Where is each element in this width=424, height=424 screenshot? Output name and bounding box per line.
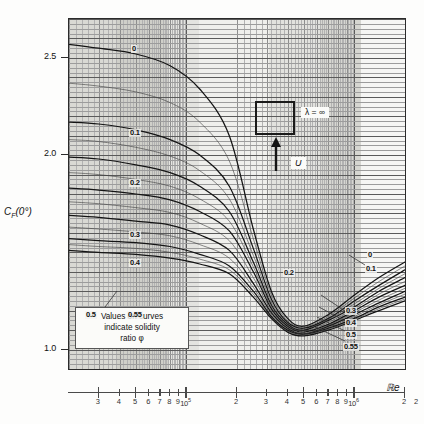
- x-axis-last-tick-label: 2: [414, 397, 418, 406]
- x-axis-tick-label: 5: [133, 397, 137, 406]
- x-axis-tick-label: 9: [176, 397, 180, 406]
- curve-label-right-0.4: 0.4: [345, 319, 357, 327]
- curve-label-right-0.1: 0.1: [365, 265, 377, 273]
- x-axis-tick: [346, 389, 347, 396]
- x-axis-tick-label: 5: [301, 397, 305, 406]
- x-axis-tick: [119, 389, 120, 396]
- curve-label-left-0.2: 0.2: [129, 179, 141, 187]
- curve-label-right-0.2: 0.2: [283, 269, 295, 277]
- x-axis-tick: [148, 389, 149, 396]
- curve-label-left-0.5: 0.5: [85, 311, 97, 319]
- x-axis-tick: [327, 389, 328, 396]
- x-axis-tick-label: 7: [325, 397, 329, 406]
- flow-arrow-icon: [269, 137, 283, 171]
- leader-line: [349, 255, 365, 265]
- velocity-annotation: U: [291, 157, 306, 169]
- lambda-annotation: λ = ∞: [301, 107, 329, 118]
- curve-intermediate: [69, 83, 405, 327]
- curve-phi-0: [69, 44, 405, 326]
- curve-label-right-0.55: 0.55: [343, 343, 359, 351]
- curve-label-left-0.55: 0.55: [127, 311, 143, 319]
- y-axis-tick-label: 2.0: [22, 148, 56, 158]
- figure-root: λ = ∞ U Values on curves indicate solidi…: [0, 0, 424, 424]
- plot-area: λ = ∞ U Values on curves indicate solidi…: [68, 18, 406, 370]
- y-axis-title-suffix: (0°): [16, 206, 32, 217]
- curve-label-left-0: 0: [131, 45, 137, 53]
- x-axis-tick-label: 8: [167, 397, 171, 406]
- curve-label-left-0.3: 0.3: [129, 231, 141, 239]
- y-axis-title: CF(0°): [4, 206, 32, 219]
- x-axis-title-text: ℝe: [386, 382, 400, 393]
- curve-label-right-0.3: 0.3: [345, 307, 357, 315]
- square-cylinder-icon: [255, 101, 295, 135]
- x-axis-tick: [169, 389, 170, 396]
- x-axis-tick: [159, 389, 160, 396]
- x-axis: 3456789105234567891062: [68, 392, 404, 393]
- x-axis-tick-label: 4: [117, 397, 121, 406]
- note-line-3: ratio φ: [78, 333, 186, 344]
- x-axis-tick: [178, 389, 179, 396]
- x-axis-tick-label: 3: [96, 397, 100, 406]
- y-axis-tick: [61, 154, 69, 155]
- curve-label-right-0: 0: [367, 251, 373, 259]
- x-axis-tick-label: 4: [285, 397, 289, 406]
- x-axis-tick-label: 9: [344, 397, 348, 406]
- x-axis-tick: [287, 389, 288, 396]
- y-axis-tick-label: 1.0: [22, 343, 56, 353]
- x-axis-title: ℝe: [386, 382, 400, 393]
- curve-label-left-0.4: 0.4: [129, 259, 141, 267]
- x-axis-tick-label: 7: [157, 397, 161, 406]
- y-axis-tick-label: 2.5: [22, 51, 56, 61]
- x-axis-tick-label: 2: [402, 397, 406, 406]
- x-axis-tick: [266, 389, 267, 396]
- leader-line: [321, 295, 345, 311]
- y-axis-tick: [61, 57, 69, 58]
- x-axis-tick-label: 6: [146, 397, 150, 406]
- x-axis-tick-label: 8: [335, 397, 339, 406]
- x-axis-tick-label: 2: [234, 397, 238, 406]
- x-axis-tick-label: 106: [348, 397, 359, 408]
- x-axis-tick: [316, 389, 317, 396]
- grid-line-vertical: [405, 19, 406, 369]
- note-line-2: indicate solidity: [78, 322, 186, 333]
- x-axis-tick: [337, 389, 338, 396]
- x-axis-tick-label: 3: [264, 397, 268, 406]
- curve-label-right-0.5: 0.5: [345, 331, 357, 339]
- curve-label-left-0.1: 0.1: [129, 129, 141, 137]
- x-axis-tick-label: 6: [314, 397, 318, 406]
- x-axis-tick-label: 105: [180, 397, 191, 408]
- grid-line-horizontal: [69, 369, 405, 370]
- y-axis-tick: [61, 349, 69, 350]
